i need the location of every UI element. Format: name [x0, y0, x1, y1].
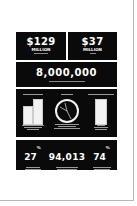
stat-value: 74: [93, 152, 106, 162]
stat-caption: [56, 167, 78, 168]
panel-heading: [88, 94, 114, 95]
panel-caption-line: [24, 127, 42, 128]
stat-caption-line: [57, 169, 77, 170]
stat-caption: [34, 53, 48, 54]
pie-circle-graphic: [55, 99, 79, 123]
panel-heading: [61, 94, 73, 95]
panel-caption-line: [94, 127, 108, 128]
stat-value: $37: [68, 37, 117, 47]
stat-box-129-million: $129 MILLION: [16, 32, 66, 60]
stat-caption: [93, 167, 111, 168]
panel-caption-line: [27, 129, 39, 130]
stat-caption-line: [25, 169, 41, 170]
stat-unit: MILLION: [16, 47, 66, 52]
stat-value: 8,000,000: [16, 68, 117, 78]
panel-single-bar: [84, 89, 117, 137]
bottom-stat-74: 74%: [86, 145, 117, 171]
stat-value: 27: [24, 152, 37, 162]
pie-lines-icon: [57, 101, 77, 121]
stat-caption: [49, 81, 85, 82]
panel-caption-line: [54, 128, 80, 129]
panel-caption: [22, 125, 44, 126]
panel-caption: [97, 125, 105, 126]
bottom-stat-94013: 94,013: [47, 145, 87, 171]
stat-caption: [26, 167, 40, 168]
percent-sign: %: [106, 145, 110, 150]
stat-value: 94,013: [49, 152, 86, 162]
stat-caption: [90, 53, 96, 54]
bar-short: [23, 106, 33, 125]
stat-box-8-million: 8,000,000: [16, 62, 117, 87]
stat-caption-line: [94, 169, 110, 170]
bottom-stat-27: 27%: [16, 145, 49, 171]
stat-value: $129: [16, 37, 66, 47]
panel-caption-line: [58, 126, 76, 127]
bar-tall: [33, 99, 43, 125]
stat-box-37-million: $37 MILLION: [68, 32, 117, 60]
panel-heading: [23, 94, 43, 95]
stat-unit: MILLION: [68, 47, 117, 52]
percent-sign: %: [37, 145, 41, 150]
panel-bar-comparison: [16, 89, 50, 137]
bottom-stats-row: 27% 94,013 74%: [16, 140, 117, 170]
panel-row: [16, 89, 117, 137]
panel-caption-line: [95, 129, 107, 130]
single-bar: [95, 99, 107, 125]
panel-pie-circle: [50, 89, 84, 137]
